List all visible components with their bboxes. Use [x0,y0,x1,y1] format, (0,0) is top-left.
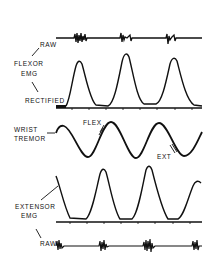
wrist-tremor-title-1: WRIST [14,126,38,133]
flexor-raw-label: RAW [40,41,57,48]
flexor-rectified-trace [56,54,202,110]
wrist-tremor-trace [47,122,202,158]
flexor-emg-title-1: FLEXOR [14,60,44,67]
extensor-emg-title-2: EMG [21,212,38,219]
extensor-emg-title-1: EXTENSOR [15,203,56,210]
extensor-rectified-trace [56,166,202,224]
extensor-raw-label: RAW [40,240,57,247]
extensor-raw-trace [56,239,202,252]
flexor-emg-title-2: EMG [21,70,38,77]
flexor-raw-trace [56,33,202,44]
wrist-tremor-title-2: TREMOR [14,135,46,142]
flex-label: FLEX [83,119,102,126]
ext-label: EXT [157,153,171,160]
flexor-rectified-label: RECTIFIED [25,97,65,104]
